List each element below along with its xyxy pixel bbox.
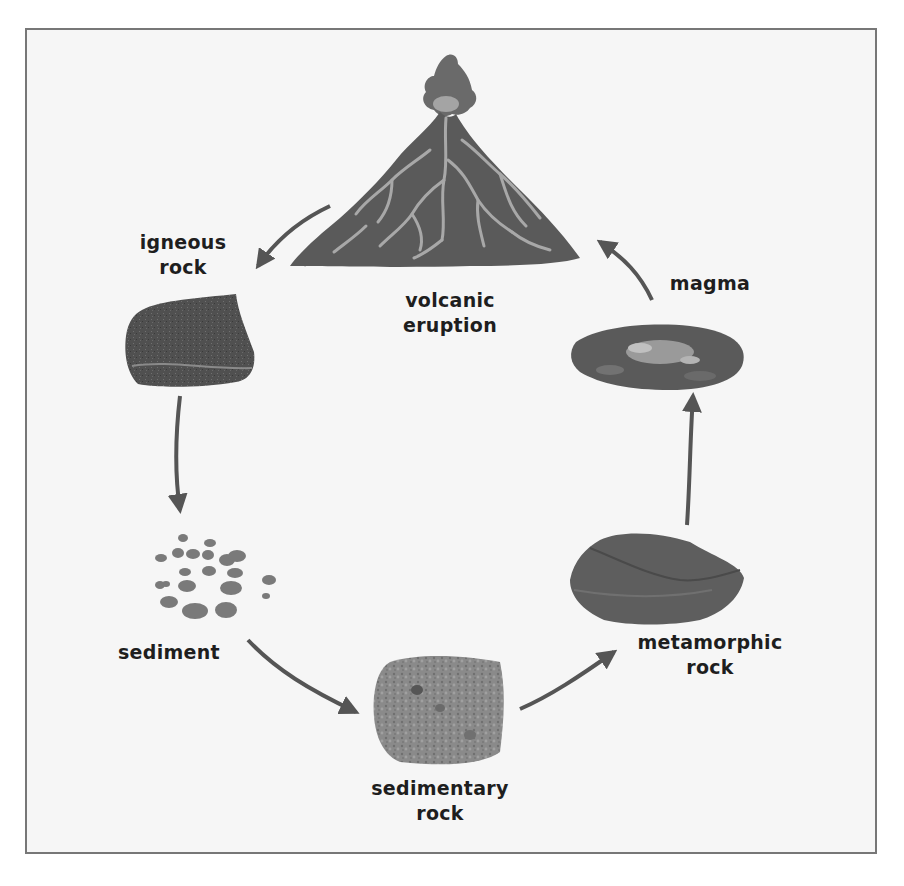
label-volcanic-eruption: volcanic eruption <box>380 288 520 338</box>
igneous-rock-icon <box>125 294 254 387</box>
arrow-igneous-to-sediment <box>176 396 180 510</box>
cycle-arrows <box>176 206 693 712</box>
label-igneous-rock: igneous rock <box>128 230 238 280</box>
arrow-metamorphic-to-magma <box>687 396 693 525</box>
volcano-icon <box>290 54 580 266</box>
label-sedimentary-rock: sedimentary rock <box>370 776 510 826</box>
arrow-sediment-to-sedimentary <box>248 640 356 712</box>
arrow-sedimentary-to-metamorphic <box>520 652 614 709</box>
label-sediment: sediment <box>118 640 248 665</box>
arrow-magma-to-volcano <box>600 242 652 300</box>
sediment-icon <box>155 534 276 619</box>
rock-cycle-diagram <box>0 0 904 886</box>
label-metamorphic-rock: metamorphic rock <box>625 630 795 680</box>
metamorphic-rock-icon <box>570 533 744 624</box>
magma-icon <box>571 325 744 390</box>
label-magma: magma <box>655 271 765 296</box>
sedimentary-rock-icon <box>374 656 504 764</box>
